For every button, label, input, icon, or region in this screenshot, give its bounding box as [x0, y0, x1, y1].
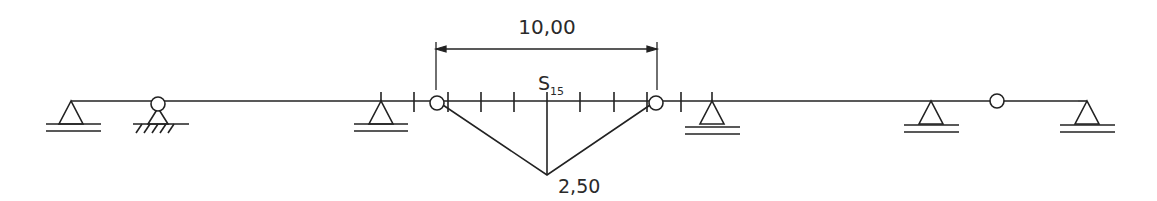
ordinate-label: 2,50: [558, 175, 600, 197]
section-label: S15: [538, 72, 564, 98]
hinge-icon: [990, 94, 1004, 108]
diagram-canvas: 10,00 S15 2,50: [0, 0, 1157, 201]
section-letter: S: [538, 72, 550, 94]
structural-diagram: 10,00 S15 2,50: [0, 0, 1157, 201]
influence-line: [437, 92, 656, 175]
roller-support-2-icon: [354, 92, 408, 131]
section-subscript: 15: [550, 85, 564, 98]
roller-support-5-icon: [1060, 101, 1115, 132]
hinge-icon: [430, 96, 444, 110]
dimension-label: 10,00: [518, 15, 575, 39]
pinned-support-icon: [133, 97, 189, 133]
hinge-icon: [649, 96, 663, 110]
hinge-icon: [151, 97, 165, 111]
roller-support-4-icon: [904, 101, 959, 132]
roller-support-3-icon: [685, 92, 740, 134]
roller-support-1-icon: [46, 101, 101, 131]
